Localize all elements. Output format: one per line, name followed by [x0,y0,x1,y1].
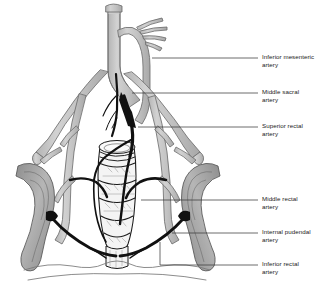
anal-canal [106,246,128,269]
label-line-1: Middle rectal [262,195,298,202]
label-line-2: artery [262,268,299,276]
label-line-1: Superior rectal [262,122,303,129]
label-line-2: artery [262,96,299,104]
label-middle-rectal-artery: Middle rectal artery [262,195,298,210]
label-line-2: artery [262,130,303,138]
label-inferior-rectal-artery: Inferior rectal artery [262,260,299,275]
label-line-1: Middle sacral [262,88,299,95]
figure-canvas: Inferior mesenteric artery Middle sacral… [0,0,327,294]
label-line-1: Inferior rectal [262,260,299,267]
label-line-2: artery [262,236,311,244]
label-line-1: Inferior mesenteric [262,53,314,60]
label-line-1: Internal pudendal [262,228,311,235]
label-inferior-mesenteric-artery: Inferior mesenteric artery [262,53,314,68]
internal-iliac-artery-right [148,96,179,244]
label-middle-sacral-artery: Middle sacral artery [262,88,299,103]
label-internal-pudendal-artery: Internal pudendal artery [262,228,311,243]
anatomy-illustration [0,0,327,294]
label-line-2: artery [262,203,298,211]
label-line-2: artery [262,61,314,69]
label-superior-rectal-artery: Superior rectal artery [262,122,303,137]
